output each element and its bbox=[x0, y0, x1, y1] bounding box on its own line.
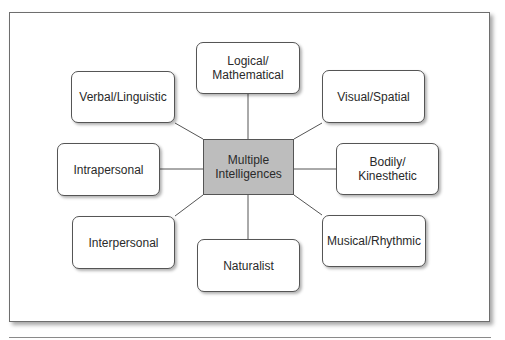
node-visual-spatial: Visual/Spatial bbox=[322, 70, 425, 123]
node-naturalist: Naturalist bbox=[197, 239, 300, 292]
link-musical bbox=[294, 195, 322, 215]
center-node: Multiple Intelligences bbox=[203, 139, 294, 195]
link-interpersonal bbox=[175, 195, 203, 216]
node-musical-rhythmic: Musical/Rhythmic bbox=[322, 215, 426, 267]
node-logical-mathematical: Logical/ Mathematical bbox=[196, 42, 300, 94]
node-interpersonal: Interpersonal bbox=[72, 216, 175, 269]
node-intrapersonal: Intrapersonal bbox=[57, 143, 160, 196]
node-verbal-linguistic: Verbal/Linguistic bbox=[71, 71, 175, 123]
link-visual bbox=[294, 123, 322, 139]
node-bodily-kinesthetic: Bodily/ Kinesthetic bbox=[336, 143, 439, 195]
link-verbal bbox=[175, 123, 203, 139]
